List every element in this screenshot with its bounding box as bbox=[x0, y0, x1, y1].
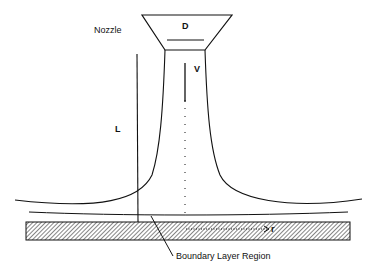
jet-right-boundary bbox=[205, 50, 362, 203]
boundary-layer-label: Boundary Layer Region bbox=[176, 252, 271, 261]
nozzle-label: Nozzle bbox=[94, 26, 122, 35]
length-label: L bbox=[115, 125, 121, 134]
jet-diagram bbox=[0, 0, 378, 278]
velocity-label: V bbox=[194, 65, 200, 74]
jet-left-boundary bbox=[15, 50, 165, 204]
diameter-label: D bbox=[182, 22, 189, 31]
length-dimension-line bbox=[137, 54, 138, 222]
boundary-layer-line bbox=[29, 212, 348, 215]
impingement-plate bbox=[26, 222, 350, 240]
radius-label: r bbox=[271, 225, 275, 234]
